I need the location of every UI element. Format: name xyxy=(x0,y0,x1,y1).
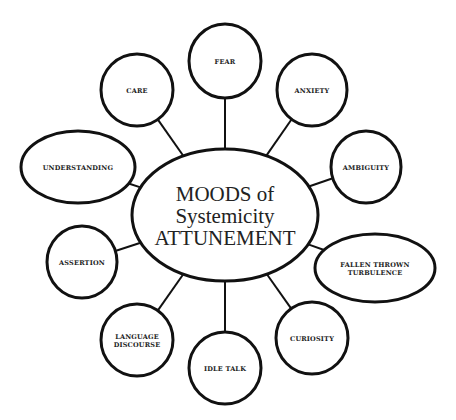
diagram-canvas: MOODS ofSystemicityATTUNEMENT FEARCAREAN… xyxy=(0,0,456,420)
connector-fallen-thrown-turbulence xyxy=(308,244,324,250)
node-label: DISCOURSE xyxy=(114,341,161,349)
node-label: LANGUAGE xyxy=(115,333,159,341)
node-label: IDLE TALK xyxy=(204,365,246,373)
connector-care xyxy=(158,119,184,156)
connector-curiosity xyxy=(267,274,291,309)
node-assertion: ASSERTION xyxy=(47,226,117,298)
node-label: FEAR xyxy=(215,58,236,66)
center-label-line: Systemicity xyxy=(175,204,275,228)
node-care: CARE xyxy=(101,54,173,126)
node-curiosity: CURIOSITY xyxy=(276,302,348,374)
center-label-line: ATTUNEMENT xyxy=(154,226,295,250)
node-label: ASSERTION xyxy=(58,259,105,267)
node-understanding: UNDERSTANDING xyxy=(21,131,135,203)
node-ambiguity: AMBIGUITY xyxy=(331,131,401,203)
node-label: FALLEN THROWN xyxy=(340,261,409,269)
node-label: UNDERSTANDING xyxy=(43,164,114,172)
center-label-line: MOODS of xyxy=(176,182,275,206)
node-label: ANXIETY xyxy=(294,87,330,95)
node-label: CURIOSITY xyxy=(290,335,334,343)
node-fallen-thrown-turbulence: FALLEN THROWNTURBULENCE xyxy=(315,234,435,302)
node-idle-talk: IDLE TALK xyxy=(189,332,261,404)
connector-understanding xyxy=(129,184,141,188)
node-fear: FEAR xyxy=(189,24,261,98)
connector-language-discourse xyxy=(158,274,184,311)
node-language-discourse: LANGUAGEDISCOURSE xyxy=(101,304,173,376)
connector-assertion xyxy=(115,243,140,251)
node-label: TURBULENCE xyxy=(348,269,403,277)
node-label: CARE xyxy=(126,87,147,95)
node-anxiety: ANXIETY xyxy=(277,54,347,126)
connector-ambiguity xyxy=(309,178,333,186)
node-label: AMBIGUITY xyxy=(342,164,389,172)
mind-map-diagram: MOODS ofSystemicityATTUNEMENT FEARCAREAN… xyxy=(0,0,456,420)
connector-anxiety xyxy=(266,119,291,156)
